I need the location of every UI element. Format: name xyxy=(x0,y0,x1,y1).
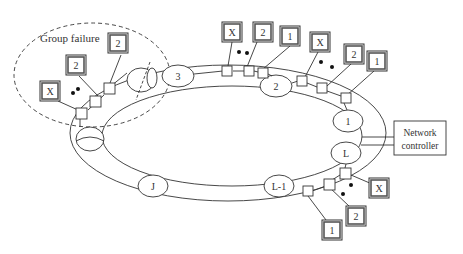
ring-node-L: L xyxy=(331,142,361,164)
svg-text:Network: Network xyxy=(403,128,436,138)
svg-text:L-1: L-1 xyxy=(272,181,286,192)
svg-text:X: X xyxy=(316,37,324,48)
svg-text:controller: controller xyxy=(402,141,440,151)
svg-text:1: 1 xyxy=(288,31,293,42)
ring-node-L-1: L-1 xyxy=(264,175,294,197)
svg-text:2: 2 xyxy=(354,211,359,222)
svg-text:3: 3 xyxy=(176,71,181,82)
svg-text:X: X xyxy=(375,183,383,194)
network-ring-diagram: Group failure 3 2 1 L L-1 J Network cont… xyxy=(0,0,463,254)
svg-text:2: 2 xyxy=(261,27,266,38)
group-node-2: X 2 1 xyxy=(292,32,387,110)
network-controller: Network controller xyxy=(394,121,446,155)
svg-text:1: 1 xyxy=(330,225,335,236)
svg-text:X: X xyxy=(228,27,236,38)
group-failure-label: Group failure xyxy=(40,32,100,44)
svg-text:L: L xyxy=(343,148,349,159)
svg-text:X: X xyxy=(46,86,54,97)
svg-text:2: 2 xyxy=(116,38,121,49)
ring-inner xyxy=(102,86,362,186)
ring-node-1: 1 xyxy=(333,110,363,132)
svg-text:2: 2 xyxy=(274,81,279,92)
svg-text:1: 1 xyxy=(346,116,351,127)
svg-text:2: 2 xyxy=(74,60,79,71)
ring-node-J: J xyxy=(138,175,168,197)
svg-text:1: 1 xyxy=(375,56,380,67)
svg-text:J: J xyxy=(151,181,155,192)
svg-text:2: 2 xyxy=(352,49,357,60)
ring-outer xyxy=(70,65,386,201)
group-node-L: X 2 1 xyxy=(303,164,389,240)
ring-node-3: 3 xyxy=(162,65,194,87)
group-failure-cluster: X 2 2 xyxy=(40,33,128,127)
